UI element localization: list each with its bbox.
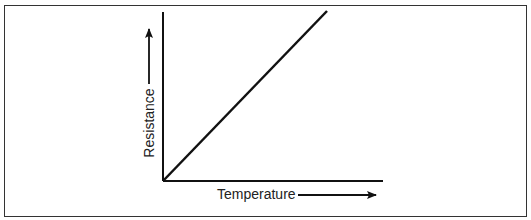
resistance-temperature-diagram: Resistance Temperature: [0, 0, 531, 220]
y-axis-label: Resistance: [141, 88, 157, 157]
resistance-line: [163, 11, 327, 181]
x-axis-label: Temperature: [217, 186, 296, 202]
